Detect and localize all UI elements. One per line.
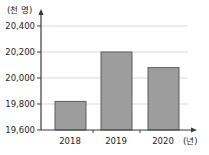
x-tick-2020: 2020 xyxy=(143,136,183,147)
x-tick-2018: 2018 xyxy=(50,136,90,147)
x-axis-unit-label: (년) xyxy=(183,136,198,147)
x-tick-label: 2018 xyxy=(50,136,90,147)
bar-2018 xyxy=(55,101,86,130)
arrow-right-icon xyxy=(191,127,197,132)
bar-2019 xyxy=(101,52,132,130)
plot-area xyxy=(0,0,209,155)
x-tick-2019: 2019 xyxy=(96,136,136,147)
x-tick-label: 2020 xyxy=(143,136,183,147)
arrow-up-icon xyxy=(38,9,43,15)
bar-2020 xyxy=(148,68,179,130)
bar-chart-figure: (천 명) 20,400 20,200 20,000 19,800 19,600 xyxy=(0,0,209,155)
x-tick-label: 2019 xyxy=(96,136,136,147)
